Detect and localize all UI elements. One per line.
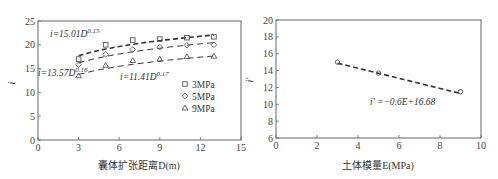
fit-line xyxy=(79,35,214,56)
y-tick-label: 16 xyxy=(263,48,273,59)
triangle-marker xyxy=(184,54,190,59)
x-tick-label: 6 xyxy=(397,140,402,151)
y-tick-label: 8 xyxy=(268,116,273,127)
x-tick-label: 8 xyxy=(438,140,443,151)
x-tick-label: 6 xyxy=(117,142,122,153)
x-tick-label: 10 xyxy=(476,140,486,151)
y-tick-label: 12 xyxy=(263,82,273,93)
triangle-legend-icon xyxy=(182,105,188,110)
left-x-axis: 03691215 xyxy=(36,137,247,153)
x-tick-label: 2 xyxy=(315,140,320,151)
y-tick-label: 6 xyxy=(268,133,273,144)
x-tick-label: 12 xyxy=(195,142,205,153)
x-tick-label: 9 xyxy=(157,142,162,153)
left-y-axis-title: i xyxy=(6,81,17,84)
figure: 0510152025 03691215 i=15.01D0.15 i=13.57… xyxy=(0,0,498,179)
y-tick-label: 18 xyxy=(263,31,273,42)
left-chart: 0510152025 03691215 i=15.01D0.15 i=13.57… xyxy=(6,16,246,173)
fit-equation-9mpa: i=11.41D0.17 xyxy=(120,70,169,82)
left-x-axis-title: 囊体扩张距离D(m) xyxy=(98,159,180,172)
triangle-marker xyxy=(157,56,163,61)
triangle-marker xyxy=(103,62,109,67)
diamond-marker xyxy=(157,44,163,50)
left-y-axis: 0510152025 xyxy=(25,16,41,146)
x-tick-label: 15 xyxy=(236,142,246,153)
fit-line xyxy=(79,43,214,63)
x-tick-label: 0 xyxy=(36,142,41,153)
legend-item-label: 3MPa xyxy=(192,80,215,90)
right-x-axis: 0246810 xyxy=(274,135,487,151)
y-tick-label: 14 xyxy=(263,65,273,76)
triangle-marker xyxy=(130,58,136,63)
square-legend-icon xyxy=(183,82,188,87)
square-marker xyxy=(103,43,108,48)
fit-line xyxy=(338,63,461,93)
y-tick-label: 20 xyxy=(25,39,35,50)
right-chart: 68101214161820 0246810 i' =−0.6E+16.68 土… xyxy=(244,15,486,173)
right-plot-frame xyxy=(276,20,481,138)
right-y-axis-title: i' xyxy=(244,77,255,83)
y-tick-label: 5 xyxy=(30,111,35,122)
y-tick-label: 0 xyxy=(30,135,35,146)
x-tick-label: 3 xyxy=(76,142,81,153)
y-tick-label: 15 xyxy=(25,63,35,74)
square-marker xyxy=(212,34,217,39)
x-tick-label: 4 xyxy=(356,140,361,151)
y-tick-label: 10 xyxy=(263,99,273,110)
right-y-axis: 68101214161820 xyxy=(263,15,279,144)
square-marker xyxy=(130,38,135,43)
legend-item-label: 9MPa xyxy=(192,104,215,114)
diamond-legend-icon xyxy=(182,93,188,99)
y-tick-label: 25 xyxy=(25,16,35,27)
legend-item-label: 5MPa xyxy=(192,92,215,102)
right-series xyxy=(335,60,462,94)
y-tick-label: 20 xyxy=(263,15,273,26)
x-tick-label: 0 xyxy=(274,140,279,151)
y-tick-label: 10 xyxy=(25,87,35,98)
circle-marker xyxy=(458,89,462,93)
right-x-axis-title: 土体模量E(MPa) xyxy=(342,159,414,172)
square-marker xyxy=(76,57,81,62)
fit-equation-3mpa: i=15.01D0.15 xyxy=(50,27,100,39)
legend: 3MPa5MPa9MPa xyxy=(182,80,215,114)
diamond-marker xyxy=(103,52,109,58)
fit-equation-linear: i' =−0.6E+16.68 xyxy=(370,97,436,107)
